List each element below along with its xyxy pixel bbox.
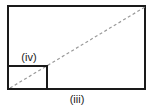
dashed-diagonal (10, 7, 145, 88)
outer-rectangle-label: (iii) (70, 93, 85, 105)
inner-rectangle-label: (iv) (21, 51, 36, 63)
diagram-canvas: (iv) (iii) (0, 0, 152, 110)
inner-rectangle (8, 66, 47, 89)
